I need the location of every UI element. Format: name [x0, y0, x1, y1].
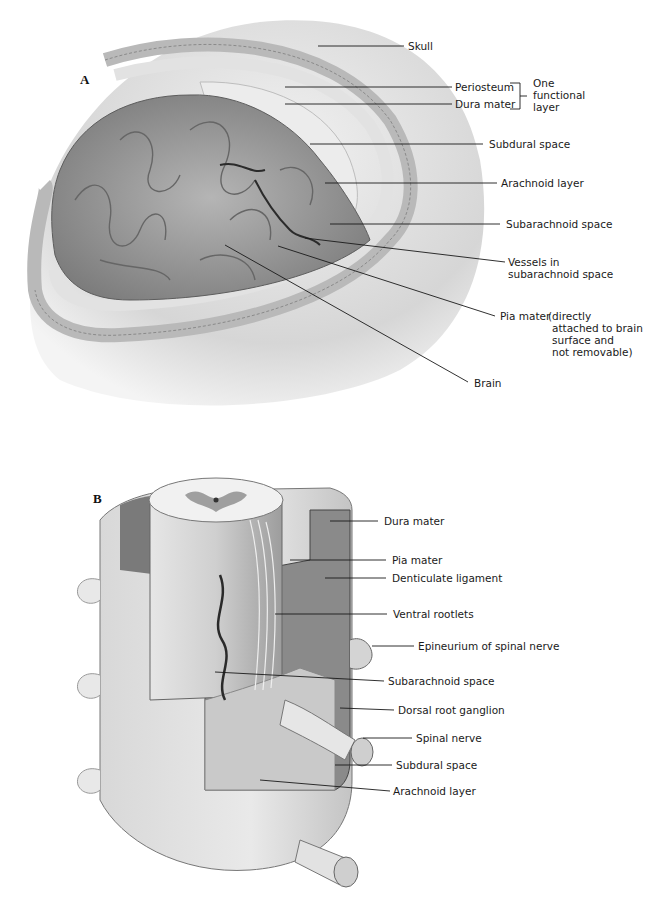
label-dura-mater-b: Dura mater: [384, 515, 444, 528]
label-line: surface and: [552, 334, 643, 346]
label-line: (directly: [548, 310, 643, 322]
label-subdural-space-b: Subdural space: [396, 759, 477, 772]
spinal-cord-illustration: [77, 478, 373, 887]
label-line: not removable): [552, 346, 643, 358]
label-dorsal-root-ganglion: Dorsal root ganglion: [398, 704, 505, 717]
label-subarachnoid-space-a: Subarachnoid space: [506, 218, 612, 231]
label-arachnoid-layer-b: Arachnoid layer: [393, 785, 476, 798]
label-one-functional-layer: One functional layer: [533, 77, 585, 113]
meninges-figure: A B Skull Periosteum Dura mater One func…: [0, 0, 646, 898]
label-subarachnoid-space-b: Subarachnoid space: [388, 675, 494, 688]
label-pia-mater-b: Pia mater: [392, 554, 442, 567]
label-brain: Brain: [474, 377, 502, 390]
panel-b-letter: B: [93, 491, 102, 507]
label-epineurium: Epineurium of spinal nerve: [418, 640, 559, 653]
label-line: One: [533, 77, 585, 89]
label-denticulate-ligament: Denticulate ligament: [392, 572, 502, 585]
label-line: functional: [533, 89, 585, 101]
label-dura-mater-a: Dura mater: [455, 98, 515, 111]
label-line: attached to brain: [552, 322, 643, 334]
panel-a-letter: A: [80, 72, 89, 88]
label-line: Vessels in: [508, 256, 613, 268]
label-spinal-nerve: Spinal nerve: [416, 732, 482, 745]
label-ventral-rootlets: Ventral rootlets: [393, 608, 474, 621]
label-pia-note: (directly attached to brain surface and …: [552, 310, 643, 358]
label-periosteum: Periosteum: [455, 81, 514, 94]
illustration-svg: [0, 0, 646, 898]
label-line: layer: [533, 101, 585, 113]
label-vessels: Vessels in subarachnoid space: [508, 256, 613, 280]
label-skull: Skull: [408, 40, 433, 53]
label-line: subarachnoid space: [508, 268, 613, 280]
label-pia-mater-a: Pia mater: [500, 310, 550, 323]
label-arachnoid-layer-a: Arachnoid layer: [501, 177, 584, 190]
label-subdural-space-a: Subdural space: [489, 138, 570, 151]
